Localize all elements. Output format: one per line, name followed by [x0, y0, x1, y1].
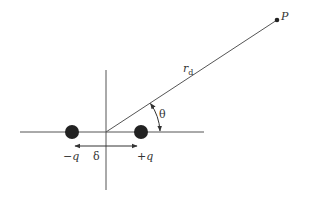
positive-charge: [134, 125, 148, 139]
dipole-diagram: P rd θ δ −q +q: [0, 0, 314, 197]
point-p-label: P: [280, 10, 289, 23]
negative-charge: [65, 125, 79, 139]
positive-charge-label: +q: [137, 150, 153, 163]
point-p: [275, 18, 280, 23]
negative-charge-label: −q: [63, 150, 79, 163]
angle-label: θ: [159, 108, 166, 121]
distance-label: rd: [183, 62, 193, 77]
separation-label: δ: [93, 150, 100, 163]
